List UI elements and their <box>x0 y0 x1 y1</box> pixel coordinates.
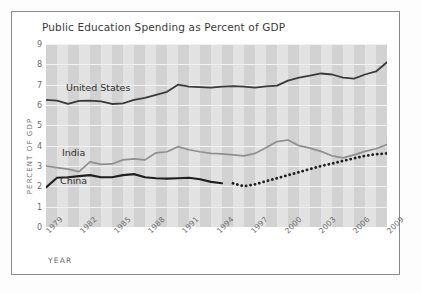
series-lines <box>46 44 387 227</box>
y-tick-label: 0 <box>20 223 42 232</box>
x-axis-label: YEAR <box>48 256 72 265</box>
y-tick-label: 3 <box>20 162 42 171</box>
x-axis-ticks: 1979198219851988199119941997200020032006… <box>46 229 387 263</box>
y-tick-label: 5 <box>20 121 42 130</box>
plot-area <box>46 44 387 227</box>
chart-title: Public Education Spending as Percent of … <box>42 21 285 33</box>
series-label-united-states: United States <box>66 82 130 93</box>
chart-figure: Public Education Spending as Percent of … <box>0 0 421 293</box>
y-tick-label: 9 <box>20 40 42 49</box>
series-label-china: China <box>60 175 87 186</box>
y-tick-label: 8 <box>20 60 42 69</box>
y-tick-label: 4 <box>20 141 42 150</box>
y-tick-label: 6 <box>20 101 42 110</box>
y-axis-ticks: PERCENT OF GDP 0123456789 <box>18 44 42 227</box>
series-label-india: India <box>62 147 85 158</box>
y-tick-label: 1 <box>20 202 42 211</box>
y-tick-label: 7 <box>20 80 42 89</box>
y-tick-label: 2 <box>20 182 42 191</box>
